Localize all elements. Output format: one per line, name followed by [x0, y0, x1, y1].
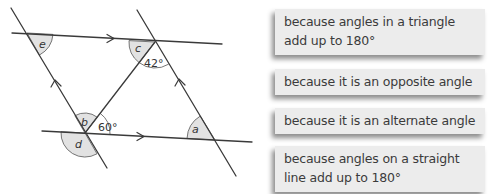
left-transversal-line: [11, 8, 107, 168]
angle-label-e: e: [39, 38, 46, 51]
reason-text-line: because it is an alternate angle: [284, 111, 476, 130]
angle-label-a: a: [192, 123, 199, 136]
angle-value-42: 42°: [144, 57, 164, 70]
reason-card-triangle-sum[interactable]: because angles in a triangle add up to 1…: [275, 9, 485, 55]
reason-card-alternate-angle[interactable]: because it is an alternate angle: [275, 108, 485, 134]
reason-text-line: because it is an opposite angle: [284, 72, 476, 91]
reason-text-line: add up to 180°: [284, 31, 476, 50]
angle-label-b: b: [81, 116, 88, 129]
reason-text-line: because angles on a straight: [284, 149, 476, 168]
right-transversal-line: [137, 10, 236, 176]
reason-text-line: because angles in a triangle: [284, 12, 476, 31]
angle-value-60: 60°: [98, 121, 118, 134]
reason-card-opposite-angle[interactable]: because it is an opposite angle: [275, 69, 485, 95]
parallel-arrows: [51, 35, 185, 141]
angle-label-d: d: [75, 138, 83, 151]
parallel-lines-diagram: e c 42° b 60° d a: [0, 0, 262, 194]
diagonal-line: [85, 42, 155, 133]
angle-label-c: c: [135, 42, 141, 55]
reason-text-line: line add up to 180°: [284, 168, 476, 187]
reason-card-straight-line[interactable]: because angles on a straight line add up…: [275, 146, 485, 192]
lines: [11, 8, 252, 176]
